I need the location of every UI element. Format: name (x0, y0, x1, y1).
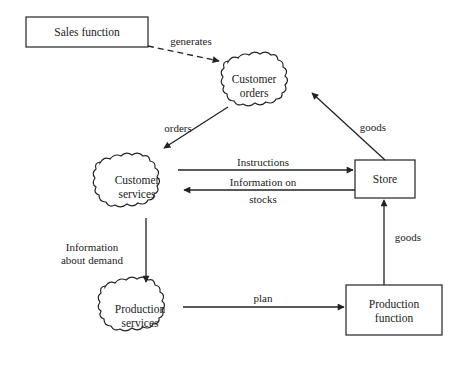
node-label: Sales function (54, 26, 120, 38)
edge-label: stocks (249, 193, 277, 205)
node-production-services: Production services (98, 277, 165, 331)
edge-generates: generates (148, 35, 219, 61)
edge-label: generates (170, 35, 212, 47)
edge-goods-to-orders: goods (312, 93, 386, 160)
node-store: Store (355, 160, 415, 198)
edge-plan: plan (183, 292, 344, 307)
node-production-function: Production function (346, 285, 442, 335)
edge-information-about-demand: Information about demand (61, 218, 146, 282)
edge-goods-to-store: goods (384, 200, 421, 285)
edge-instructions: Instructions (178, 156, 353, 170)
edge-label: Information (66, 241, 119, 253)
node-sales-function: Sales function (26, 17, 148, 47)
node-label: Production (369, 298, 420, 310)
edge-label: goods (360, 121, 386, 133)
edge-orders: orders (164, 107, 228, 148)
node-label: Production (115, 303, 166, 315)
edge-information-on-stocks: Information on stocks (184, 176, 355, 205)
node-label: services (121, 317, 159, 329)
flow-diagram: Sales function Customer orders Customer … (0, 0, 466, 365)
node-label: Customer (115, 174, 160, 186)
node-customer-services: Customer services (93, 153, 159, 207)
node-label: services (118, 188, 156, 200)
edge-label: orders (164, 122, 192, 134)
edge-label: goods (395, 231, 421, 243)
node-customer-orders: Customer orders (221, 52, 287, 106)
edge-label: about demand (61, 254, 124, 266)
dashed-arrow (148, 46, 219, 61)
node-label: Customer (232, 73, 277, 85)
node-label: orders (240, 87, 269, 99)
edge-label: plan (254, 292, 273, 304)
node-label: function (375, 312, 414, 324)
node-label: Store (373, 173, 397, 185)
edge-label: Information on (230, 176, 297, 188)
edge-label: Instructions (237, 156, 289, 168)
